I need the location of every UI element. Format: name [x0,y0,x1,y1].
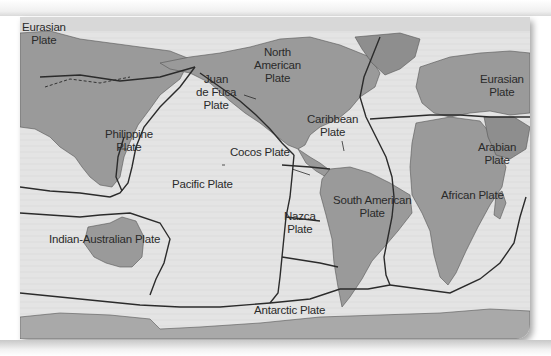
label-line: American [254,59,301,72]
label-philippine-plate: Philippine Plate [105,128,153,154]
label-line: Plate [254,72,301,85]
label-indian-australian-plate: Indian-Australian Plate [49,233,160,246]
label-pacific-plate: Pacific Plate [172,178,233,191]
label-line: Eurasian [480,73,524,86]
label-line: North [254,46,301,59]
label-eurasian-plate-west: Eurasian Plate [22,21,66,47]
label-arabian-plate: Arabian Plate [478,141,516,167]
label-juan-de-fuca-plate: Juan de Fuca Plate [196,73,236,112]
label-line: Juan [196,73,236,86]
bottom-shadow [0,340,551,356]
label-line: Plate [478,154,516,167]
label-line: de Fuca [196,86,236,99]
label-line: Plate [307,126,358,139]
label-line: Eurasian [22,21,66,34]
label-line: Indian-Australian Plate [49,233,160,246]
label-line: Antarctic Plate [254,304,325,317]
label-south-american-plate: South American Plate [333,194,411,220]
label-eurasian-plate-east: Eurasian Plate [480,73,524,99]
label-line: Plate [480,86,524,99]
label-line: Plate [333,207,411,220]
label-line: Caribbean [307,113,358,126]
top-band [0,0,551,16]
label-line: Plate [22,34,66,47]
label-cocos-plate: Cocos Plate [230,146,290,159]
label-line: Philippine [105,128,153,141]
label-line: Pacific Plate [172,178,233,191]
label-line: African Plate [441,189,504,202]
label-nazca-plate: Nazca Plate [284,210,316,236]
label-line: Plate [105,141,153,154]
label-line: Arabian [478,141,516,154]
label-antarctic-plate: Antarctic Plate [254,304,325,317]
arctic-ocean [20,17,530,31]
tectonic-plate-map: Eurasian Plate Philippine Plate Juan de … [20,17,530,339]
label-african-plate: African Plate [441,189,504,202]
label-north-american-plate: North American Plate [254,46,301,85]
label-caribbean-plate: Caribbean Plate [307,113,358,139]
label-line: Plate [196,99,236,112]
label-line: South American [333,194,411,207]
label-line: Cocos Plate [230,146,290,159]
label-line: Plate [284,223,316,236]
label-line: Nazca [284,210,316,223]
